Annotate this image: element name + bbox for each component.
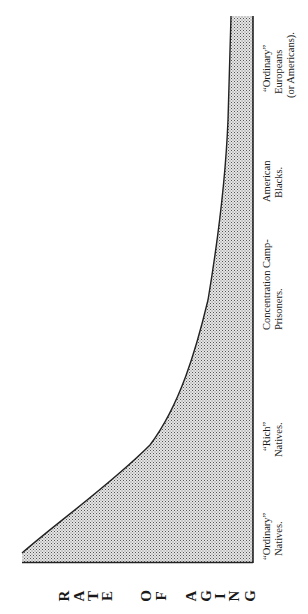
category-label-concentration-camp-prisoners: Concentration Camp- Prisoners. (261, 239, 284, 330)
svg-text:Blacks.: Blacks. (273, 167, 284, 198)
svg-text:R: R (56, 590, 72, 601)
svg-text:Concentration Camp-: Concentration Camp- (261, 239, 272, 330)
rate-of-aging-chart: “Ordinary” Natives. “Rich” Natives. Conc… (0, 0, 308, 614)
svg-text:“Ordinary”: “Ordinary” (261, 44, 272, 92)
svg-text:F: F (153, 591, 169, 600)
svg-text:N: N (226, 590, 242, 601)
svg-text:O: O (138, 590, 154, 602)
svg-text:G: G (242, 590, 258, 602)
svg-text:Natives.: Natives. (273, 422, 284, 457)
svg-text:A: A (183, 590, 199, 601)
category-label-rich-natives: “Rich” Natives. (261, 422, 284, 457)
value-axis-label: R A T E O F A G I N G (56, 590, 258, 602)
category-label-american-blacks: American Blacks. (261, 160, 284, 202)
svg-text:“Rich”: “Rich” (261, 422, 272, 451)
svg-text:“Ordinary”: “Ordinary” (261, 512, 272, 560)
svg-text:American: American (261, 160, 272, 202)
svg-text:Natives.: Natives. (273, 521, 284, 556)
category-label-ordinary-europeans: “Ordinary” Europeans (or Americans). (261, 32, 297, 98)
category-label-ordinary-natives: “Ordinary” Natives. (261, 512, 284, 560)
aging-area-fill (22, 16, 253, 562)
svg-text:E: E (99, 591, 115, 601)
svg-text:Europeans: Europeans (273, 50, 284, 94)
svg-text:Prisoners.: Prisoners. (273, 288, 284, 330)
svg-text:(or Americans).: (or Americans). (285, 32, 297, 98)
